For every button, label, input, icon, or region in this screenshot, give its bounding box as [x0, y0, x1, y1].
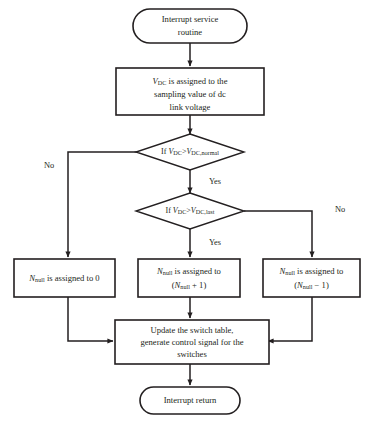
- assign-inc-sub2: null: [180, 283, 190, 290]
- assign-dec-box-shape: [263, 259, 360, 297]
- sample-label-line2: sampling value of dc: [154, 89, 226, 99]
- node-decision-last[interactable]: If VDC>VDC,last: [136, 193, 244, 229]
- assign-zero-sub: null: [35, 276, 45, 283]
- edge-label-no-left: No: [44, 161, 54, 170]
- decision-normal-lhs-sub: DC: [173, 149, 182, 156]
- start-label-line1: Interrupt service: [162, 14, 219, 24]
- flowchart-canvas: Interrupt service routine VDC is assigne…: [0, 0, 380, 428]
- edge-no-right-branch: [244, 211, 312, 257]
- flowchart-diagram: Interrupt service routine VDC is assigne…: [0, 0, 380, 428]
- edge-assign-zero-to-update: [68, 297, 113, 341]
- update-label-line3: switches: [177, 349, 207, 359]
- node-update[interactable]: Update the switch table, generate contro…: [115, 320, 269, 364]
- update-label-line1: Update the switch table,: [150, 325, 233, 335]
- assign-dec-label-line2: (Nnull − 1): [294, 280, 329, 290]
- sample-rest: is assigned to the: [166, 76, 227, 86]
- node-start[interactable]: Interrupt service routine: [133, 9, 247, 43]
- sample-label-line3: link voltage: [170, 102, 211, 112]
- node-assign-inc[interactable]: Nnull is assigned to (Nnull + 1): [138, 259, 240, 297]
- edge-label-no-right: No: [335, 205, 345, 214]
- edge-no-left-branch: [68, 152, 150, 257]
- assign-dec-sub: null: [285, 269, 295, 276]
- sample-sub-dc: DC: [158, 79, 167, 86]
- node-assign-zero[interactable]: Nnull is assigned to 0: [14, 259, 115, 297]
- assign-zero-rest: is assigned to 0: [45, 273, 100, 283]
- node-sample[interactable]: VDC is assigned to the sampling value of…: [116, 68, 264, 115]
- node-end[interactable]: Interrupt return: [140, 387, 240, 414]
- decision-normal-rhs-sub: DC,normal: [191, 149, 219, 156]
- assign-inc-rest2: + 1): [190, 280, 206, 290]
- node-assign-dec[interactable]: Nnull is assigned to (Nnull − 1): [263, 259, 360, 297]
- decision-last-rhs-sub: DC,last: [196, 208, 215, 215]
- decision-last-lhs-sub: DC: [178, 208, 187, 215]
- edge-label-yes-first: Yes: [209, 177, 221, 186]
- start-label-line2: routine: [178, 27, 203, 37]
- assign-dec-rest2: − 1): [312, 280, 328, 290]
- assign-inc-rest: is assigned to: [172, 266, 220, 276]
- assign-inc-sub: null: [163, 269, 173, 276]
- assign-inc-label-line2: (Nnull + 1): [172, 280, 207, 290]
- edge-label-yes-second: Yes: [209, 238, 221, 247]
- assign-dec-rest: is assigned to: [295, 266, 343, 276]
- update-label-line2: generate control signal for the: [140, 337, 243, 347]
- decision-normal-prefix: If: [161, 147, 168, 156]
- assign-inc-box-shape: [138, 259, 240, 297]
- node-decision-normal[interactable]: If VDC>VDC,normal: [136, 134, 244, 170]
- assign-dec-sub2: null: [303, 283, 313, 290]
- edge-assign-dec-to-update: [268, 297, 312, 341]
- decision-last-prefix: If: [166, 206, 173, 215]
- end-label: Interrupt return: [164, 395, 217, 405]
